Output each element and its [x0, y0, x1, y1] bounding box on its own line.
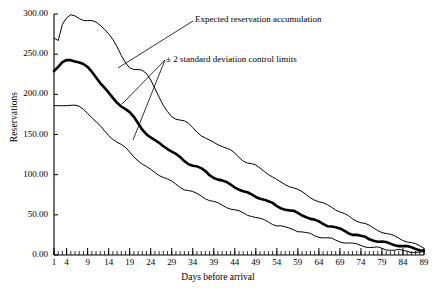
x-tick-label: 69: [329, 257, 351, 267]
data-curves: [54, 15, 424, 253]
x-tick-label: 54: [266, 257, 288, 267]
x-tick-label: 39: [203, 257, 225, 267]
y-tick-label: 100.00: [6, 169, 48, 179]
axis-ticks: [54, 14, 424, 255]
annotation-expected-curve: Expected reservation accumulation: [195, 14, 321, 24]
annotation-control-limits: ± 2 standard deviation control limits: [166, 54, 297, 64]
x-tick-label: 59: [287, 257, 309, 267]
y-tick-label: 300.00: [6, 8, 48, 18]
x-tick-label: 29: [161, 257, 183, 267]
x-tick-label: 79: [371, 257, 393, 267]
x-tick-label: 14: [98, 257, 120, 267]
x-tick-label: 4: [56, 257, 78, 267]
x-tick-label: 44: [224, 257, 246, 267]
x-tick-label: 19: [119, 257, 141, 267]
x-tick-label: 34: [182, 257, 204, 267]
x-tick-label: 64: [308, 257, 330, 267]
x-tick-label: 74: [350, 257, 372, 267]
y-tick-label: 150.00: [6, 129, 48, 139]
x-tick-label: 9: [77, 257, 99, 267]
y-tick-label: 0.00: [6, 249, 48, 259]
x-tick-label: 89: [413, 257, 435, 267]
x-tick-label: 49: [245, 257, 267, 267]
x-tick-label: 24: [140, 257, 162, 267]
y-tick-label: 250.00: [6, 48, 48, 58]
y-tick-label: 50.00: [6, 209, 48, 219]
x-tick-label: 84: [392, 257, 414, 267]
x-axis-title: Days before arrival: [118, 272, 318, 282]
annotation-leader-lines: [118, 21, 193, 140]
y-tick-label: 200.00: [6, 88, 48, 98]
chart-axes: [54, 14, 424, 255]
chart-figure: Reservations Days before arrival Expecte…: [0, 0, 437, 293]
chart-plot-area: [0, 0, 437, 293]
